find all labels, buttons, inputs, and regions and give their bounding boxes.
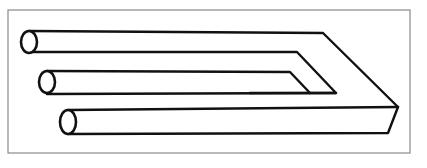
middle-tube-bottom-edge — [47, 93, 336, 94]
bottom-tube-top-edge — [68, 107, 398, 110]
bottom-tube-bottom-edge — [68, 107, 398, 134]
middle-tube-top-edge — [47, 71, 310, 93]
top-prong-end-icon — [21, 31, 37, 53]
bottom-prong-end-icon — [60, 110, 76, 134]
outer-top-edge — [29, 31, 398, 107]
figure-canvas — [0, 0, 427, 168]
impossible-trident-figure — [0, 0, 427, 168]
middle-prong-end-icon — [39, 71, 55, 93]
